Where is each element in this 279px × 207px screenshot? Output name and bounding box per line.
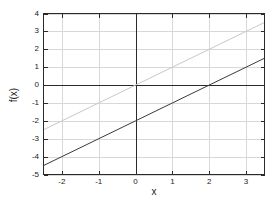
- series-line-dark: [44, 58, 265, 165]
- y-tick-label: 1: [20, 63, 39, 71]
- chart-figure: -5-4-3-2-101234 -2-10123 f(x) x: [0, 0, 279, 207]
- x-tick-label: 2: [196, 178, 222, 186]
- y-tick-label: 4: [20, 10, 39, 18]
- y-tick-label: -4: [20, 153, 39, 161]
- x-axis-title: x: [43, 186, 265, 197]
- x-tick-label: -2: [49, 178, 75, 186]
- y-tick-label: 3: [20, 27, 39, 35]
- zero-axis-lines: [44, 14, 265, 175]
- tick-marks: [44, 14, 265, 176]
- gridlines: [44, 14, 265, 176]
- plot-frame: [44, 14, 265, 175]
- x-tick-label: -1: [86, 178, 112, 186]
- y-axis-title: f(x): [3, 83, 25, 107]
- series-line-light: [44, 22, 265, 129]
- x-tick-label: 1: [159, 178, 185, 186]
- y-tick-label: -3: [20, 135, 39, 143]
- y-tick-label: -2: [20, 117, 39, 125]
- y-tick-label: 2: [20, 45, 39, 53]
- x-tick-label: 0: [123, 178, 149, 186]
- x-tick-label: 3: [233, 178, 259, 186]
- data-series: [44, 22, 265, 165]
- plot-canvas: [0, 0, 279, 207]
